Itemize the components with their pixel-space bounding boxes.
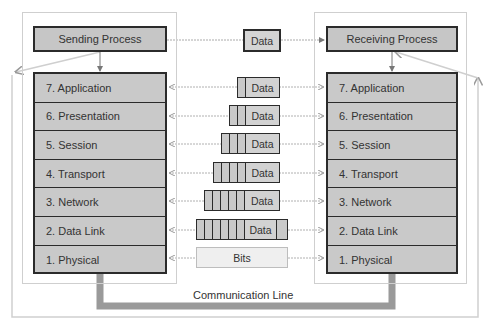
header-cell [230,163,238,182]
header-cell [213,220,221,239]
communication-line-label: Communication Line [193,289,293,301]
header-cell [238,134,246,153]
header-cell [222,163,230,182]
receiver-layer-data-link: 2. Data Link [328,217,456,246]
pdu-data: Data [246,134,279,153]
pdu-data: Data [246,106,279,125]
pdu-network: Data [204,190,280,211]
header-cell [229,191,237,210]
header-cell [214,163,222,182]
header-cell [237,191,245,210]
header-cell [213,191,221,210]
receiver-layer-application: 7. Application [328,74,456,103]
pdu-session: Data [221,133,280,154]
pdu-data-link: Data [196,219,288,240]
sender-layer-stack: 7. Application 6. Presentation 5. Sessio… [33,72,167,274]
sender-layer-physical: 1. Physical [35,246,165,275]
sending-process-box: Sending Process [33,26,167,52]
sender-layer-transport: 4. Transport [35,160,165,189]
bits-box: Bits [196,247,288,268]
header-cell [205,220,213,239]
trailer-cell [276,220,287,239]
pdu-application: Data [237,77,280,98]
pdu-data: Data [245,191,279,210]
pdu-transport: Data [213,162,280,183]
pdu-data: Data [246,78,279,97]
header-cell [221,191,229,210]
receiver-layer-presentation: 6. Presentation [328,103,456,132]
header-cell [238,106,246,125]
top-data-box: Data [243,29,281,52]
header-cell [230,134,238,153]
sender-layer-application: 7. Application [35,74,165,103]
header-cell [230,106,238,125]
sender-layer-session: 5. Session [35,131,165,160]
pdu-data: Data [245,220,276,239]
receiver-layer-network: 3. Network [328,188,456,217]
sender-layer-presentation: 6. Presentation [35,103,165,132]
receiver-layer-physical: 1. Physical [328,246,456,275]
header-cell [222,134,230,153]
pdu-data: Data [246,163,279,182]
receiver-layer-transport: 4. Transport [328,160,456,189]
header-cell [197,220,205,239]
header-cell [238,163,246,182]
receiver-layer-session: 5. Session [328,131,456,160]
header-cell [205,191,213,210]
receiving-process-box: Receiving Process [326,26,458,52]
header-cell [238,78,246,97]
header-cell [229,220,237,239]
header-cell [221,220,229,239]
header-cell [237,220,245,239]
receiver-layer-stack: 7. Application 6. Presentation 5. Sessio… [326,72,458,274]
pdu-presentation: Data [229,105,280,126]
sender-layer-network: 3. Network [35,188,165,217]
sender-layer-data-link: 2. Data Link [35,217,165,246]
